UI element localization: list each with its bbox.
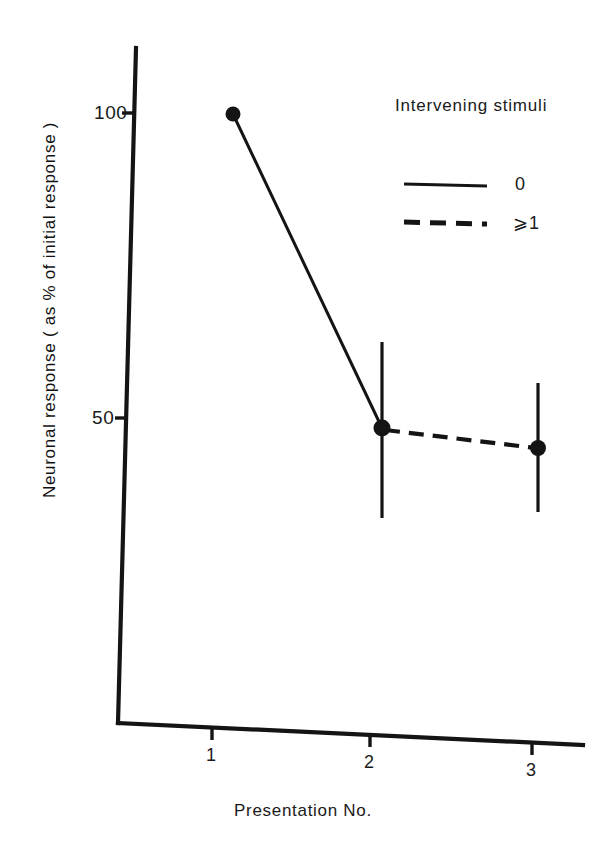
x-tick-label-3: 3 [526, 760, 536, 781]
figure-canvas: 100 50 1 2 3 Neuronal response ( as % of… [0, 0, 605, 844]
series-line-one-or-more-intervening [385, 430, 536, 448]
data-point-presentation-3 [530, 440, 546, 456]
x-tick-label-1: 1 [206, 745, 216, 766]
x-axis-title: Presentation No. [234, 801, 372, 821]
y-axis-title-wrapper: Neuronal response ( as % of initial resp… [40, 100, 60, 520]
data-point-presentation-2 [374, 420, 391, 437]
x-tick-label-2: 2 [364, 752, 374, 773]
y-axis-title: Neuronal response ( as % of initial resp… [40, 122, 59, 498]
legend-swatch-solid [404, 184, 487, 186]
y-tick-label-100: 100 [94, 102, 128, 124]
legend-label-zero: 0 [515, 174, 526, 195]
legend-label-one-or-more: ⩾1 [513, 212, 540, 234]
x-axis-line [118, 723, 583, 745]
series-line-zero-intervening [233, 114, 382, 428]
legend-title: Intervening stimuli [395, 96, 547, 116]
y-tick-label-50: 50 [92, 407, 114, 429]
chart-plot-area [0, 0, 605, 844]
data-point-presentation-1 [226, 107, 241, 122]
legend-swatch-dashed [404, 222, 487, 224]
y-axis-line [118, 48, 136, 723]
